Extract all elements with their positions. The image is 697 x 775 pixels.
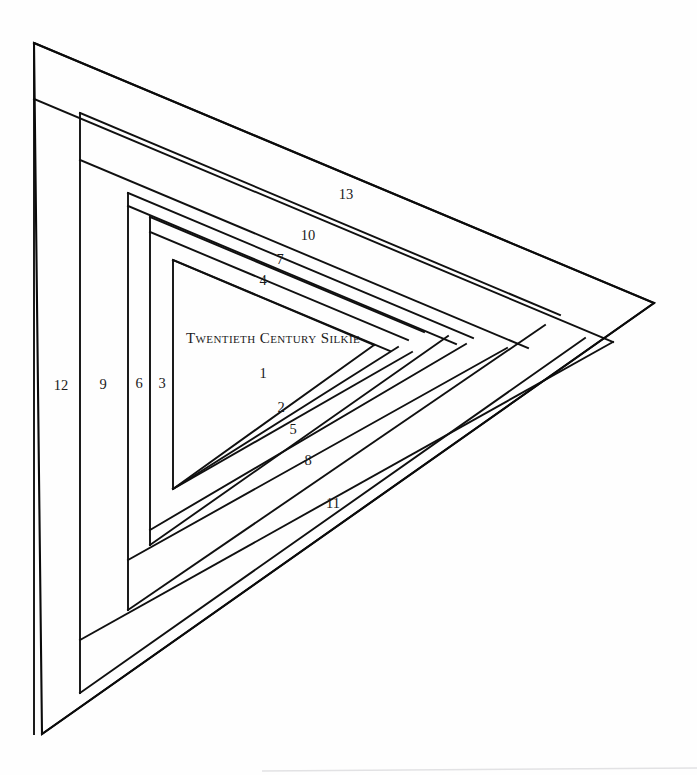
lower-edge-2 (80, 338, 585, 693)
strip-number-2: 2 (277, 399, 284, 415)
outer-triangle (34, 43, 654, 734)
lower-edge-3 (128, 325, 545, 610)
outer-triangle-outline (34, 43, 654, 734)
upper-edge-5 (128, 206, 456, 344)
bottom-faint-rule (262, 768, 697, 771)
strip-number-labels: 12345678910111213 (54, 186, 354, 511)
strip-number-11: 11 (326, 495, 340, 511)
strip-number-13: 13 (339, 186, 354, 202)
lower-edge-8 (173, 347, 398, 489)
upper-edge-3 (80, 160, 528, 348)
upper-edge-2 (80, 113, 560, 315)
upper-edge-4 (128, 193, 473, 338)
strip-number-4: 4 (259, 272, 267, 288)
quilt-block-diagram: 12345678910111213 Twentieth Century Silk… (0, 0, 697, 775)
strip-number-9: 9 (99, 376, 106, 392)
strip-number-8: 8 (304, 452, 311, 468)
strip-number-12: 12 (54, 377, 69, 393)
block-title: Twentieth Century Silkie (186, 330, 360, 346)
upper-edge-6 (150, 217, 424, 332)
strip-number-7: 7 (276, 251, 283, 267)
lower-edge-4 (128, 348, 507, 560)
upper-edge-7 (150, 232, 408, 340)
strip-number-3: 3 (158, 375, 165, 391)
lower-edge-6 (150, 336, 448, 545)
strip-number-5: 5 (289, 421, 296, 437)
faint-bottom-rule (262, 768, 697, 771)
strip-number-6: 6 (135, 375, 142, 391)
strip-number-1: 1 (259, 365, 266, 381)
log-cabin-triangle-svg: 12345678910111213 Twentieth Century Silk… (0, 0, 697, 775)
lower-edge-5 (150, 344, 466, 530)
strip-number-10: 10 (301, 227, 316, 243)
